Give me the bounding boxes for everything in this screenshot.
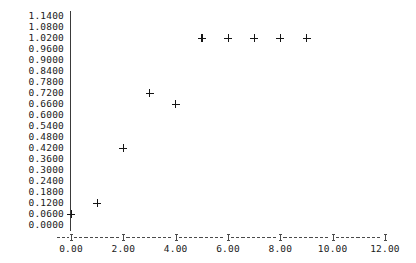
data-point-marker xyxy=(250,34,259,43)
data-point-marker xyxy=(119,144,128,153)
scatter-series xyxy=(0,0,416,263)
data-point-marker xyxy=(197,34,206,43)
data-point-marker xyxy=(171,100,180,109)
chart-canvas: 1.14001.08001.02000.96000.90000.84000.78… xyxy=(0,0,416,263)
data-point-marker xyxy=(67,210,76,219)
data-point-marker xyxy=(93,199,102,208)
data-point-marker xyxy=(302,34,311,43)
data-point-marker xyxy=(224,34,233,43)
data-point-marker xyxy=(145,89,154,98)
data-point-marker xyxy=(276,34,285,43)
